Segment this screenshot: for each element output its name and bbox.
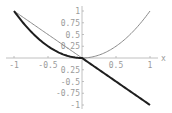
y-tick-label: 0.5	[66, 31, 81, 40]
x-tick-label: 1	[148, 61, 153, 70]
y-tick-label: -0.75	[56, 89, 80, 98]
y-tick-label: 1	[75, 7, 80, 16]
y-tick-label: 0.25	[61, 66, 80, 75]
x-tick-label: -0.5	[38, 61, 57, 70]
y-tick-label: 0.75	[61, 19, 80, 28]
x-tick-label: 0.5	[109, 61, 124, 70]
x-axis-label: x	[161, 54, 166, 63]
y-tick-label: -0.5	[61, 78, 80, 87]
chart: x -1-0.50.5110.750.50.250.25-0.5-0.75-1	[0, 0, 172, 113]
y-tick-label: -1	[70, 101, 80, 110]
x-tick-label: -1	[9, 61, 19, 70]
